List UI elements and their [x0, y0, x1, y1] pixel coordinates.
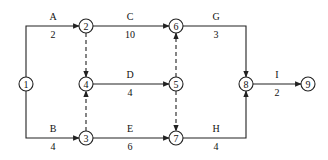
activity-c-duration: 10: [125, 29, 135, 40]
activity-h: H 4: [183, 91, 246, 152]
node-6: 6: [169, 19, 183, 33]
node-9-label: 9: [306, 79, 311, 90]
activity-e: E 6: [93, 123, 169, 152]
node-2: 2: [79, 19, 93, 33]
activity-i: I 2: [253, 69, 301, 98]
activity-h-duration: 4: [214, 141, 219, 152]
activity-h-name: H: [212, 123, 219, 134]
activity-e-duration: 6: [128, 141, 133, 152]
node-8: 8: [239, 77, 253, 91]
node-5-label: 5: [174, 79, 179, 90]
node-3-label: 3: [84, 133, 89, 144]
node-2-label: 2: [84, 21, 89, 32]
activity-a-name: A: [49, 11, 57, 22]
node-1-label: 1: [24, 79, 29, 90]
activity-d-name: D: [126, 69, 133, 80]
activity-g-name: G: [212, 11, 219, 22]
activity-i-duration: 2: [275, 87, 280, 98]
node-3: 3: [79, 131, 93, 145]
activity-b-name: B: [50, 123, 57, 134]
activity-a: A 2: [26, 11, 79, 77]
activity-c-name: C: [127, 11, 134, 22]
activity-i-name: I: [275, 69, 278, 80]
activity-d-duration: 4: [128, 87, 133, 98]
node-7: 7: [169, 131, 183, 145]
network-diagram: A 2 B 4 C 10 D 4 E 6 G 3 H 4 I 2: [0, 0, 328, 160]
activity-b-duration: 4: [51, 141, 56, 152]
activity-g: G 3: [183, 11, 246, 77]
activity-g-duration: 3: [214, 29, 219, 40]
node-9: 9: [301, 77, 315, 91]
activity-a-duration: 2: [51, 29, 56, 40]
node-7-label: 7: [174, 133, 179, 144]
activity-b: B 4: [26, 91, 79, 152]
node-8-label: 8: [244, 79, 249, 90]
node-4: 4: [79, 77, 93, 91]
activity-d: D 4: [93, 69, 169, 98]
node-4-label: 4: [84, 79, 89, 90]
activity-c: C 10: [93, 11, 169, 40]
node-1: 1: [19, 77, 33, 91]
node-6-label: 6: [174, 21, 179, 32]
activity-e-name: E: [127, 123, 133, 134]
node-5: 5: [169, 77, 183, 91]
